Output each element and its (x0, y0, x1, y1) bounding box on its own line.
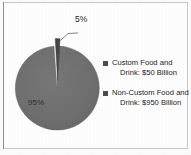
legend-swatch-icon (103, 61, 108, 66)
legend-item-non-custom[interactable]: Non-Custom Food and Drink: $950 Billion (103, 88, 187, 108)
chart-plot-area: 5% 95% Custom Food and Drink: $50 Billio… (0, 0, 191, 155)
chart-legend: Custom Food and Drink: $50 Billion Non-C… (103, 58, 187, 118)
legend-item-non-custom-line2: Drink: $950 Billion (103, 98, 187, 108)
legend-item-custom-line2: Drink: $50 Billion (103, 68, 187, 78)
legend-swatch-icon (103, 91, 108, 96)
data-label-custom-percent: 5% (75, 14, 87, 24)
pie-graphic (10, 14, 105, 134)
pie-chart-figure: 5% 95% Custom Food and Drink: $50 Billio… (0, 0, 191, 155)
leader-line-small-slice (61, 33, 79, 41)
legend-item-custom[interactable]: Custom Food and Drink: $50 Billion (103, 58, 187, 78)
legend-item-custom-line1: Custom Food and (103, 58, 187, 68)
legend-item-non-custom-line1: Non-Custom Food and (103, 88, 187, 98)
data-label-non-custom-percent: 95% (28, 98, 44, 107)
